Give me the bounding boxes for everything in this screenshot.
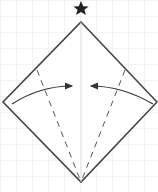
diagram-canvas (0, 0, 158, 192)
origami-diagram: Origami fold step (0, 0, 158, 192)
